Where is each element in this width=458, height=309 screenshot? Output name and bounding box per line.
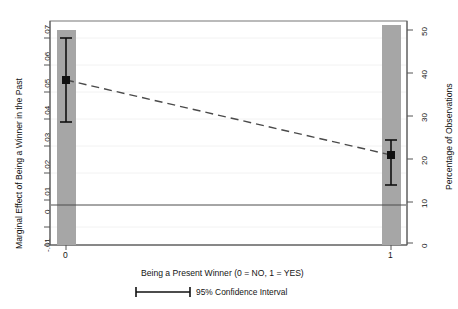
chart-figure: Marginal Effect of Being a Winner in the… (0, 0, 458, 309)
y-axis-right (407, 21, 413, 245)
plot-frame (50, 21, 407, 245)
y-axis-left (44, 21, 50, 245)
legend-errorbar-glyph (136, 287, 190, 297)
bar-category-1 (382, 25, 401, 245)
x-axis (50, 245, 407, 250)
chart-canvas (0, 0, 458, 309)
point-marker-category-1 (387, 151, 395, 159)
point-marker-category-0 (62, 76, 70, 84)
